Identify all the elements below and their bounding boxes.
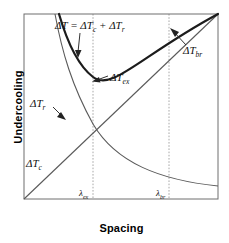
y-axis-title: Undercooling	[12, 61, 24, 153]
label-delta-t-c: ΔTc	[26, 157, 42, 172]
tick-ex-sub: ex	[83, 194, 88, 200]
plot-canvas	[0, 0, 229, 243]
label-ex-base: ΔT	[110, 71, 123, 83]
label-r-sub: r	[43, 103, 46, 112]
arrow-branching-label	[170, 28, 186, 45]
label-sum-sub2: r	[122, 25, 125, 34]
label-br-base: ΔT	[183, 44, 196, 56]
label-ex-sub: ex	[123, 77, 130, 86]
label-sum-lead: ΔT = ΔT	[55, 19, 93, 31]
label-sum-mid: + ΔT	[96, 19, 122, 31]
x-axis-title: Spacing	[24, 222, 219, 234]
x-tick-label-lambda-br: λbr	[156, 188, 165, 200]
label-delta-t-r: ΔTr	[30, 97, 46, 112]
label-sum-equation: ΔT = ΔTc + ΔTr	[55, 19, 125, 34]
tick-br-sub: br	[160, 194, 165, 200]
label-delta-t-br: ΔTbr	[183, 44, 202, 59]
figure-container: Undercooling Spacing ΔT = ΔTc + ΔTr ΔTex…	[0, 0, 229, 243]
label-c-sub: c	[39, 163, 42, 172]
label-delta-t-ex: ΔTex	[110, 71, 129, 86]
label-c-base: ΔT	[26, 157, 39, 169]
label-r-base: ΔT	[30, 97, 43, 109]
x-tick-label-lambda-ex: λex	[79, 188, 88, 200]
arrow-curvature-label	[53, 107, 66, 120]
curve-delta-t-c	[24, 14, 218, 199]
label-br-sub: br	[196, 50, 203, 59]
